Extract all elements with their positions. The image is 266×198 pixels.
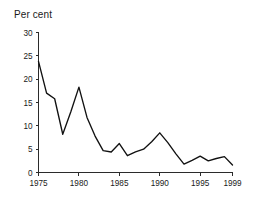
y-axis-tick-labels: 051015202530 (23, 29, 33, 178)
y-tick-label: 10 (23, 122, 33, 131)
y-tick-label: 20 (23, 75, 33, 84)
x-tick-label: 1999 (223, 179, 242, 188)
data-series-line (39, 61, 233, 165)
y-tick-label: 15 (23, 99, 33, 108)
x-tick-label: 1980 (70, 179, 89, 188)
y-tick-label: 25 (23, 52, 33, 61)
x-tick-label: 1995 (191, 179, 210, 188)
y-tick-label: 0 (28, 169, 33, 178)
y-tick-label: 30 (23, 29, 33, 38)
chart-figure: Per cent 051015202530 197519801985199019… (0, 0, 266, 198)
line-chart-plot: 051015202530 197519801985199019951999 (0, 0, 266, 198)
x-tick-label: 1975 (29, 179, 48, 188)
x-tick-label: 1990 (151, 179, 170, 188)
x-axis-tick-labels: 197519801985199019951999 (29, 179, 242, 188)
y-tick-label: 5 (28, 145, 33, 154)
x-tick-label: 1985 (110, 179, 129, 188)
